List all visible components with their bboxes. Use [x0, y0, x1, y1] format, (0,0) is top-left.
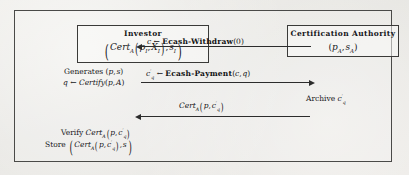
message-3-open-paren: (: [200, 103, 203, 111]
note-certify-line: q ← Certify(p, A): [63, 78, 124, 89]
ca-state-expression: (pA, sA): [288, 41, 398, 53]
message-3-close-paren: ): [221, 103, 224, 111]
message-2-lhs-prime: ′: [150, 69, 151, 74]
message-1-label: c ← Ecash-Withdraw(0): [147, 37, 244, 46]
store-arg-p: p: [99, 140, 104, 149]
ca-title: Certification Authority: [288, 29, 398, 39]
message-2-arrow-line: [141, 82, 310, 83]
note-investor-verify-store: Verify CertA(p, c′q) Store (CertA(p, c′q…: [45, 128, 133, 153]
certify-assign-arrow-icon: ←: [70, 78, 76, 87]
generates-arg-s: s: [116, 67, 120, 76]
store-inner-close-paren: ): [116, 142, 119, 150]
message-1-lhs: c: [147, 37, 151, 46]
message-3-cert: Cert: [179, 101, 196, 110]
certify-arg-p: p: [108, 78, 113, 87]
store-arg-subscript: q: [112, 145, 115, 150]
message-2-arrowhead-right-icon: [309, 80, 315, 86]
message-3-comma: ,: [208, 101, 210, 110]
message-2-label: c′q ← Ecash-Payment(c, q): [146, 69, 250, 78]
message-3-cert-subscript: A: [196, 107, 199, 112]
message-2-close-paren: ): [247, 69, 250, 78]
store-inner-open-paren: (: [95, 142, 98, 150]
figure-frame: Investor (CertA(pI, XI), sI) Certificati…: [14, 10, 392, 162]
certify-lhs-q: q: [63, 78, 68, 87]
store-close-paren: ): [128, 144, 131, 153]
generates-arg-p: p: [108, 67, 113, 76]
message-3-label: CertA(p, c′q): [179, 101, 224, 112]
verify-open-paren: (: [107, 130, 110, 138]
certify-arg-authority: A: [116, 78, 121, 87]
verify-label: Verify: [61, 128, 83, 137]
investor-secret-key-subscript: I: [174, 48, 176, 54]
archive-prime: ′: [342, 94, 343, 99]
archive-subscript: q: [343, 100, 346, 105]
message-3-arg-subscript: q: [217, 107, 220, 112]
message-3-arg-prime: ′: [216, 101, 217, 106]
store-arg-prime: ′: [111, 139, 112, 144]
verify-arg-prime: ′: [122, 128, 123, 133]
message-2-function: Ecash-Payment: [165, 69, 232, 78]
store-cert: Cert: [74, 140, 91, 149]
verify-cert: Cert: [86, 128, 103, 137]
generates-label: Generates: [64, 67, 103, 76]
store-line: Store (CertA(p, c′q), s): [45, 140, 133, 153]
ca-close-paren: ): [354, 42, 358, 52]
message-2-assign-arrow-icon: ←: [157, 69, 163, 78]
message-3-arrowhead-left-icon: [135, 114, 141, 120]
archive-label: Archive: [306, 94, 335, 103]
note-ca-archive: Archive c′q: [306, 94, 346, 105]
message-1-arrowhead-left-icon: [136, 44, 142, 50]
verify-arg-p: p: [110, 128, 115, 137]
note-generates-line: Generates (p, s): [63, 67, 124, 78]
participant-box-certification-authority: Certification Authority (pA, sA): [287, 25, 399, 57]
close-paren: ): [178, 46, 182, 56]
verify-cert-subscript: A: [102, 134, 105, 139]
cert-authority-subscript: A: [130, 48, 134, 54]
store-open-paren: (: [69, 144, 72, 153]
message-1-assign-arrow-icon: ←: [154, 37, 160, 46]
message-3-arrow-line: [141, 116, 310, 117]
note-investor-generates: Generates (p, s) q ← Certify(p, A): [63, 67, 124, 88]
certify-function: Certify: [79, 78, 105, 87]
open-paren: (: [104, 46, 108, 56]
verify-line: Verify CertA(p, c′q): [61, 128, 133, 139]
cert-label: Cert: [110, 42, 130, 52]
message-1-arrow-line: [142, 46, 311, 47]
message-1-close-paren: ): [241, 37, 244, 46]
message-2-lhs-subscript: q: [151, 75, 154, 80]
store-label: Store: [45, 140, 66, 149]
message-1-function: Ecash-Withdraw: [162, 37, 233, 46]
investor-attribute-subscript: I: [158, 48, 160, 54]
